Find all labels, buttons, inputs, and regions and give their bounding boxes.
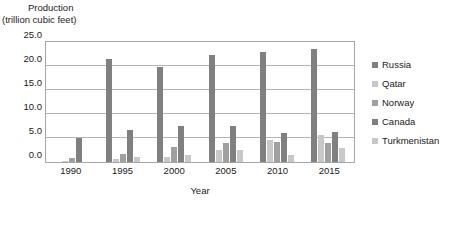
legend-swatch-icon	[372, 100, 378, 106]
bar-qatar[interactable]	[267, 140, 273, 162]
bar-norway[interactable]	[171, 147, 177, 162]
bar-group	[149, 42, 200, 162]
legend-swatch-icon	[372, 138, 378, 144]
bar-turkmenistan[interactable]	[134, 157, 140, 162]
y-tick-label: 25.0	[2, 30, 42, 40]
legend-item-canada[interactable]: Canada	[372, 112, 460, 131]
bar-russia[interactable]	[157, 67, 163, 162]
y-axis-title: Production (trillion cubic feet)	[0, 2, 150, 26]
y-tick-label: 0.0	[2, 150, 42, 160]
bar-group	[97, 42, 148, 162]
bar-group	[200, 42, 251, 162]
bar-norway[interactable]	[69, 158, 75, 162]
bar-turkmenistan[interactable]	[339, 148, 345, 162]
bar-qatar[interactable]	[216, 150, 222, 162]
bar-canada[interactable]	[76, 138, 82, 162]
bar-canada[interactable]	[127, 130, 133, 162]
bar-norway[interactable]	[274, 142, 280, 162]
bar-russia[interactable]	[260, 52, 266, 162]
legend-swatch-icon	[372, 62, 378, 68]
bar-canada[interactable]	[281, 133, 287, 162]
legend-label: Turkmenistan	[382, 135, 439, 146]
bar-qatar[interactable]	[318, 135, 324, 162]
x-tick-label: 1990	[45, 165, 97, 176]
x-tick-label: 2000	[148, 165, 200, 176]
y-axis-title-line2: (trillion cubic feet)	[0, 14, 150, 26]
y-tick-label: 5.0	[2, 126, 42, 136]
x-tick-label: 2010	[252, 165, 304, 176]
bar-canada[interactable]	[332, 132, 338, 162]
legend-label: Norway	[382, 97, 414, 108]
legend-item-norway[interactable]: Norway	[372, 93, 460, 112]
bar-russia[interactable]	[311, 49, 317, 162]
y-axis-ticks: 0.05.010.015.020.025.0	[0, 41, 42, 163]
legend-item-qatar[interactable]: Qatar	[372, 74, 460, 93]
legend-swatch-icon	[372, 81, 378, 87]
plot-area	[45, 41, 355, 163]
bar-russia[interactable]	[209, 55, 215, 162]
bar-qatar[interactable]	[62, 161, 68, 162]
y-tick-label: 20.0	[2, 54, 42, 64]
legend-swatch-icon	[372, 119, 378, 125]
bar-norway[interactable]	[120, 154, 126, 162]
x-axis-title: Year	[45, 185, 355, 196]
legend-item-russia[interactable]: Russia	[372, 55, 460, 74]
y-tick-label: 15.0	[2, 78, 42, 88]
legend-item-turkmenistan[interactable]: Turkmenistan	[372, 131, 460, 150]
bar-canada[interactable]	[230, 126, 236, 162]
x-tick-label: 1995	[97, 165, 149, 176]
bar-qatar[interactable]	[164, 157, 170, 162]
bar-turkmenistan[interactable]	[185, 155, 191, 162]
legend-label: Russia	[382, 59, 411, 70]
bar-turkmenistan[interactable]	[237, 150, 243, 162]
y-axis-title-line1: Production	[0, 2, 150, 14]
x-axis-ticks: 199019952000200520102015	[45, 165, 355, 176]
bar-russia[interactable]	[106, 59, 112, 162]
bar-turkmenistan[interactable]	[288, 155, 294, 162]
chart-container: Production (trillion cubic feet) 0.05.01…	[0, 0, 463, 235]
bar-group	[46, 42, 97, 162]
legend-label: Canada	[382, 116, 415, 127]
legend-label: Qatar	[382, 78, 406, 89]
x-tick-label: 2015	[303, 165, 355, 176]
bar-norway[interactable]	[325, 143, 331, 162]
bar-groups	[46, 42, 354, 162]
bar-group	[303, 42, 354, 162]
bar-group	[251, 42, 302, 162]
x-tick-label: 2005	[200, 165, 252, 176]
bar-canada[interactable]	[178, 126, 184, 162]
bar-norway[interactable]	[223, 143, 229, 162]
y-tick-label: 10.0	[2, 102, 42, 112]
legend: RussiaQatarNorwayCanadaTurkmenistan	[372, 55, 460, 150]
bar-qatar[interactable]	[113, 159, 119, 162]
